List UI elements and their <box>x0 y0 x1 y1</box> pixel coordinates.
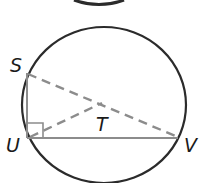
segment-ut-dashed <box>30 103 102 137</box>
geometry-diagram: S U T V <box>0 0 208 183</box>
label-u: U <box>6 134 20 156</box>
label-s: S <box>10 54 22 76</box>
label-t: T <box>96 113 109 135</box>
cropped-ellipse-top <box>74 0 124 5</box>
label-v: V <box>184 134 199 156</box>
